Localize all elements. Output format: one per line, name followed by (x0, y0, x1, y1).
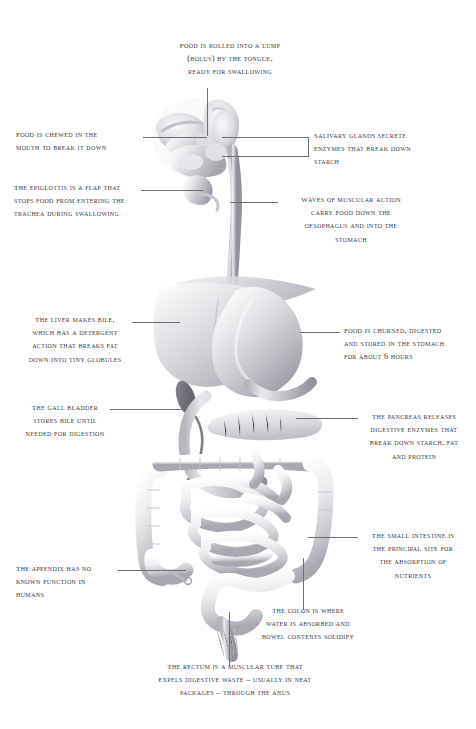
annotation-pancreas: The pancreas releases digestive enzymes … (358, 409, 470, 463)
annotation-mouth: Food is chewed in the mouth to break it … (16, 127, 144, 154)
annotation-small-intestine: The small intestine is the principal sit… (358, 528, 468, 582)
mouth-and-throat-group (152, 98, 240, 210)
leader-appendix (118, 570, 186, 571)
annotation-liver: The liver makes bile, which has a deterg… (18, 312, 132, 366)
leader-liver (132, 322, 180, 323)
annotation-bolus: Food is rolled into a lump (bolus) by th… (160, 38, 300, 79)
leader-salivary-brace (308, 137, 309, 157)
transverse-colon-shape (160, 461, 310, 464)
leader-stomach (300, 332, 340, 333)
leader-bolus (207, 88, 208, 136)
annotation-rectum: The rectum is a muscular tube that expel… (104, 659, 366, 700)
leader-salivary-top (222, 137, 308, 138)
leader-rectum (229, 612, 230, 666)
annotation-salivary-glands: Salivary glands secrete enzymes that bre… (314, 128, 464, 169)
annotation-epiglottis: The epiglottis is a flap that stops food… (14, 180, 144, 221)
annotation-appendix: The appendix has no known function in hu… (16, 561, 122, 602)
leader-small-intestine (308, 537, 358, 538)
leader-salivary-bot (222, 156, 308, 157)
annotation-gall-bladder: The gall bladder stores bile until neede… (18, 400, 112, 441)
annotation-colon: The colon is where water is absorbed and… (246, 603, 370, 644)
leader-mouth (143, 137, 207, 138)
leader-epiglottis (141, 190, 203, 191)
digestive-system-figure: Food is rolled into a lump (bolus) by th… (0, 0, 476, 729)
leader-oesophagus (230, 202, 278, 203)
leader-pancreas (296, 418, 358, 419)
descending-colon-shape (296, 464, 326, 576)
annotation-stomach: Food is churned, digested and stored in … (344, 323, 470, 364)
annotation-oesophagus: Waves of muscular action carry food down… (286, 192, 416, 246)
rectum-shape (222, 622, 232, 656)
leader-gall-bladder (110, 409, 182, 410)
